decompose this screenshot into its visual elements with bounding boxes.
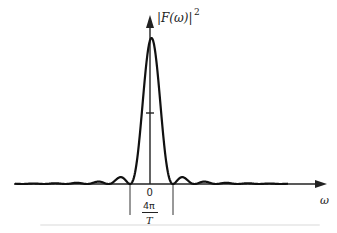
figure-caption (40, 224, 320, 228)
sinc-squared-diagram: |F(ω)| 2 ω 0 4π T (0, 0, 337, 233)
diagram-canvas: |F(ω)| 2 ω 0 4π T (0, 0, 337, 233)
faded-caption-text (40, 224, 320, 226)
y-axis-label: |F(ω)| (157, 11, 193, 25)
width-label-numerator: 4π (143, 200, 155, 211)
origin-label: 0 (147, 187, 153, 198)
y-axis-label-exponent: 2 (194, 7, 200, 17)
sinc-squared-curve (15, 38, 288, 184)
x-axis-arrow-icon (315, 180, 327, 188)
y-axis-arrow-icon (146, 15, 154, 28)
x-axis-label: ω (320, 194, 329, 207)
